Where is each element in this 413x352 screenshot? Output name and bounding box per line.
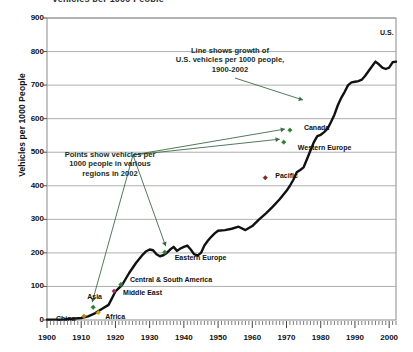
point-label-middle-east: Middle East bbox=[123, 289, 162, 296]
point-label-central-south-america: Central & South America bbox=[130, 276, 212, 283]
chart-container: Vehicles per 1000 People Vehicles per 10… bbox=[0, 0, 413, 352]
point-label-canada: Canada bbox=[304, 124, 329, 131]
point-label-china: China bbox=[56, 315, 75, 322]
point-label-africa: Africa bbox=[105, 313, 125, 320]
point-label-asia: Asia bbox=[87, 293, 102, 300]
annotation-points-note: Points show vehicles per 1000 people in … bbox=[48, 150, 172, 178]
point-label-western-europe: Western Europe bbox=[298, 144, 352, 151]
point-label-us: U.S. bbox=[380, 29, 394, 36]
annotation-line-note: Line shows growth of U.S. vehicles per 1… bbox=[150, 46, 310, 74]
point-label-pacific: Pacific bbox=[275, 172, 298, 179]
point-label-eastern-europe: Eastern Europe bbox=[175, 254, 227, 261]
